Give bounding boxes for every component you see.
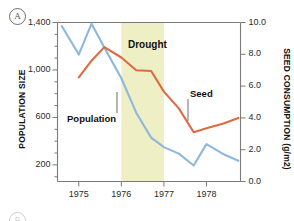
y-axis-left-label: 600 (17, 111, 51, 121)
y-axis-right-label: 8.0 (249, 48, 283, 58)
series-label-seed: Seed (190, 88, 213, 99)
x-axis-label: 1975 (59, 189, 99, 199)
y-axis-right-label: 2.0 (249, 144, 283, 154)
figure-panel-a: A B POPULATION SIZE SEED CONSUMPTION (g/… (0, 0, 294, 221)
y-axis-left-label: 1,000 (17, 64, 51, 74)
x-axis-label: 1978 (186, 189, 226, 199)
y-axis-right-label: 4.0 (249, 112, 283, 122)
y-axis-left-label: 200 (17, 159, 51, 169)
y-axis-right-label: 0.0 (249, 176, 283, 186)
series-label-population: Population (67, 113, 116, 124)
y-axis-left-label: 1,400 (17, 17, 51, 27)
x-axis-label: 1976 (101, 189, 141, 199)
region-label-drought: Drought (128, 39, 167, 50)
x-axis-label: 1977 (144, 189, 184, 199)
y-axis-right-label: 6.0 (249, 80, 283, 90)
y-axis-right-label: 10.0 (249, 17, 283, 27)
